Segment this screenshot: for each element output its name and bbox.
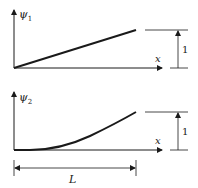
panel-psi1: ψ1 x 1 bbox=[14, 8, 188, 68]
length-dimension: L bbox=[14, 160, 136, 186]
psi2-curve bbox=[14, 112, 136, 150]
psi2-y-label: ψ2 bbox=[19, 91, 32, 106]
psi1-height-label: 1 bbox=[182, 44, 188, 55]
psi1-curve bbox=[14, 30, 136, 68]
psi2-height-label: 1 bbox=[182, 126, 188, 137]
length-label: L bbox=[68, 173, 76, 186]
shape-functions-diagram: ψ1 x 1 ψ2 x 1 L bbox=[0, 0, 198, 188]
psi1-x-label: x bbox=[155, 53, 161, 64]
panel-psi2: ψ2 x 1 bbox=[14, 91, 188, 150]
psi1-y-label: ψ1 bbox=[19, 8, 32, 23]
psi2-x-label: x bbox=[155, 135, 161, 146]
